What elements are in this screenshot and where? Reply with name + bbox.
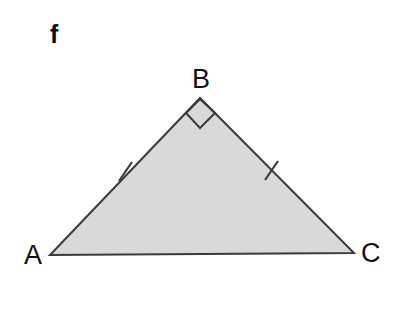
vertex-label-a: A	[24, 242, 42, 269]
geometry-figure	[0, 0, 397, 326]
vertex-label-b: B	[192, 66, 210, 93]
part-label: f	[50, 22, 58, 47]
vertex-label-c: C	[361, 240, 381, 267]
